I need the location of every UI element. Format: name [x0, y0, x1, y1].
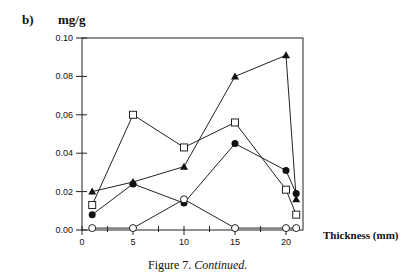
filled-circle-marker: [293, 190, 300, 197]
x-tick-label: 0: [79, 237, 84, 247]
plot-frame: [82, 38, 303, 230]
series-line: [92, 144, 296, 215]
series-line: [92, 115, 296, 215]
open-circle-marker: [293, 225, 300, 232]
triangle-marker: [180, 163, 188, 170]
x-tick-label: 5: [130, 237, 135, 247]
series-line: [92, 55, 296, 199]
x-tick-label: 20: [281, 237, 291, 247]
x-axis-label: Thickness (mm): [323, 229, 398, 241]
square-marker: [89, 202, 96, 209]
y-tick-label: 0,06: [55, 110, 73, 120]
square-marker: [181, 144, 188, 151]
series-line: [92, 199, 296, 228]
open-circle-marker: [232, 225, 239, 232]
square-marker: [232, 119, 239, 126]
x-tick-label: 15: [230, 237, 240, 247]
y-tick-label: 0.04: [55, 148, 73, 158]
filled-circle-marker: [283, 167, 290, 174]
filled-circle-marker: [232, 140, 239, 147]
open-circle-marker: [283, 225, 290, 232]
square-marker: [130, 111, 137, 118]
y-tick-label: 0.02: [55, 187, 73, 197]
filled-circle-marker: [130, 180, 137, 187]
open-circle-marker: [130, 225, 137, 232]
caption-prefix: Figure 7.: [148, 258, 194, 272]
square-marker: [283, 186, 290, 193]
filled-circle-marker: [89, 211, 96, 218]
y-tick-label: 0.08: [55, 71, 73, 81]
open-circle-marker: [89, 225, 96, 232]
triangle-marker: [282, 51, 290, 58]
figure-caption: Figure 7. Continued.: [148, 258, 247, 273]
y-tick-label: 0.10: [55, 33, 73, 43]
square-marker: [293, 211, 300, 218]
triangle-marker: [231, 72, 239, 79]
y-tick-label: 0.00: [55, 225, 73, 235]
open-circle-marker: [181, 196, 188, 203]
caption-italic: Continued.: [194, 258, 247, 272]
x-tick-label: 10: [179, 237, 189, 247]
